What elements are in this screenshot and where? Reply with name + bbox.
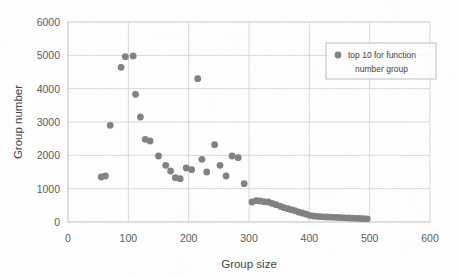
data-point bbox=[199, 156, 206, 163]
data-point bbox=[107, 122, 114, 129]
legend-label-line2: number group bbox=[355, 64, 408, 74]
data-point bbox=[102, 173, 109, 180]
data-point bbox=[235, 154, 242, 161]
data-point bbox=[241, 180, 248, 187]
data-point bbox=[155, 153, 162, 160]
data-point bbox=[211, 141, 218, 148]
scatter-chart-figure: 0100020003000400050006000 01002003004005… bbox=[0, 0, 460, 279]
legend-marker-icon bbox=[335, 52, 342, 59]
y-tick-label: 3000 bbox=[37, 116, 61, 128]
y-tick-label: 5000 bbox=[37, 49, 61, 61]
data-point bbox=[203, 169, 210, 176]
y-tick-label: 4000 bbox=[37, 83, 61, 95]
data-point bbox=[132, 91, 139, 98]
data-point bbox=[122, 53, 129, 60]
y-tick-label: 1000 bbox=[37, 183, 61, 195]
x-tick-label: 200 bbox=[180, 232, 198, 244]
data-point bbox=[177, 175, 184, 182]
x-tick-label: 300 bbox=[240, 232, 258, 244]
data-point bbox=[223, 173, 230, 180]
data-point bbox=[167, 168, 174, 175]
y-tick-label: 0 bbox=[54, 216, 60, 228]
x-axis-title: Group size bbox=[221, 258, 277, 270]
x-tick-label: 400 bbox=[301, 232, 319, 244]
x-tick-label: 500 bbox=[361, 232, 379, 244]
data-point bbox=[137, 114, 144, 121]
y-axis-title: Group number bbox=[12, 85, 24, 159]
x-axis-tick-labels: 0100200300400500600 bbox=[65, 232, 439, 244]
data-point bbox=[147, 138, 154, 145]
data-point bbox=[130, 53, 137, 60]
chart-legend: top 10 for function number group bbox=[326, 43, 436, 79]
y-tick-label: 6000 bbox=[37, 16, 61, 28]
x-tick-label: 600 bbox=[421, 232, 439, 244]
data-point bbox=[188, 166, 195, 173]
data-point bbox=[162, 162, 169, 169]
data-point bbox=[364, 215, 371, 222]
data-point bbox=[217, 162, 224, 169]
y-axis-tick-labels: 0100020003000400050006000 bbox=[37, 16, 61, 228]
data-point bbox=[118, 64, 125, 71]
data-point bbox=[229, 153, 236, 160]
x-tick-label: 0 bbox=[65, 232, 71, 244]
legend-label-line1: top 10 for function bbox=[348, 50, 416, 60]
y-tick-label: 2000 bbox=[37, 149, 61, 161]
x-tick-label: 100 bbox=[120, 232, 138, 244]
data-point bbox=[194, 75, 201, 82]
chart-canvas: 0100020003000400050006000 01002003004005… bbox=[0, 0, 460, 279]
